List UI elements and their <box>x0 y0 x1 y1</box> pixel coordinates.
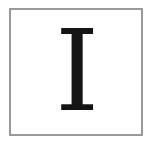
letter-glyph: I <box>12 9 142 133</box>
letter-card: I <box>9 8 143 136</box>
